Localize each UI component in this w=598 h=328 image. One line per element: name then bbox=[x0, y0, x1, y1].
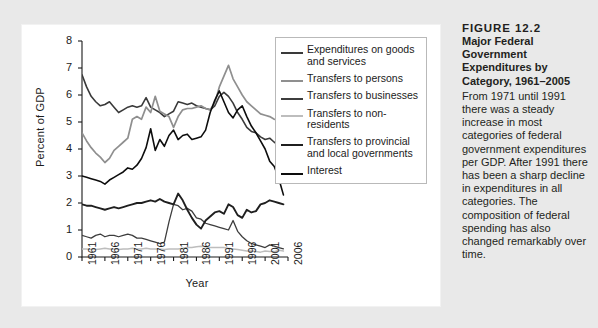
legend-item-label: Interest bbox=[307, 165, 342, 177]
legend-item-label: Expenditures on goods and services bbox=[307, 44, 420, 67]
legend-swatch-icon bbox=[281, 47, 303, 56]
x-axis-tick: 1986 bbox=[200, 242, 212, 265]
legend-item[interactable]: Transfers to provincial and local govern… bbox=[281, 136, 420, 159]
x-axis-tick: 1976 bbox=[155, 242, 167, 265]
x-axis-tick: 1991 bbox=[223, 242, 235, 265]
figure-description: From 1971 until 1991 there was a steady … bbox=[462, 90, 588, 262]
x-axis-tick: 2001 bbox=[269, 242, 281, 265]
chart-legend: Expenditures on goods and servicesTransf… bbox=[275, 37, 427, 184]
figure-title: Major Federal Government Expenditures by… bbox=[462, 35, 588, 88]
legend-item-label: Transfers to persons bbox=[307, 73, 403, 85]
legend-swatch-icon bbox=[281, 168, 303, 177]
x-axis-tick: 1971 bbox=[132, 242, 144, 265]
chart-series-line bbox=[82, 65, 283, 162]
legend-item[interactable]: Transfers to businesses bbox=[281, 90, 420, 102]
x-axis-tick: 2006 bbox=[292, 242, 304, 265]
legend-swatch-icon bbox=[281, 93, 303, 102]
legend-item[interactable]: Transfers to persons bbox=[281, 73, 420, 85]
y-axis-tick: 7 bbox=[54, 61, 72, 73]
legend-item[interactable]: Expenditures on goods and services bbox=[281, 44, 420, 67]
legend-item-label: Transfers to non-residents bbox=[307, 108, 420, 131]
figure-number: FIGURE 12.2 bbox=[462, 22, 588, 34]
y-axis-tick: 4 bbox=[54, 142, 72, 154]
figure-panel: Percent of GDP Year 01234567819611966197… bbox=[22, 25, 440, 306]
legend-swatch-icon bbox=[281, 139, 303, 148]
y-axis-tick: 2 bbox=[54, 196, 72, 208]
legend-item-label: Transfers to businesses bbox=[307, 90, 418, 102]
legend-item[interactable]: Interest bbox=[281, 165, 420, 177]
x-axis-tick: 1996 bbox=[246, 242, 258, 265]
y-axis-tick: 1 bbox=[54, 223, 72, 235]
legend-item-label: Transfers to provincial and local govern… bbox=[307, 136, 420, 159]
y-axis-title: Percent of GDP bbox=[34, 57, 46, 197]
legend-item[interactable]: Transfers to non-residents bbox=[281, 108, 420, 131]
figure-caption: FIGURE 12.2 Major Federal Government Exp… bbox=[462, 22, 588, 261]
y-axis-tick: 3 bbox=[54, 169, 72, 181]
x-axis-tick: 1981 bbox=[178, 242, 190, 265]
x-axis-tick: 1966 bbox=[109, 242, 121, 265]
legend-swatch-icon bbox=[281, 76, 303, 85]
y-axis-tick: 8 bbox=[54, 34, 72, 46]
x-axis-tick: 1961 bbox=[86, 242, 98, 265]
y-axis-tick: 5 bbox=[54, 115, 72, 127]
figure-screenshot: Percent of GDP Year 01234567819611966197… bbox=[0, 0, 598, 328]
y-axis-tick: 0 bbox=[54, 250, 72, 262]
chart-series-line bbox=[82, 194, 283, 229]
legend-swatch-icon bbox=[281, 111, 303, 120]
y-axis-tick: 6 bbox=[54, 88, 72, 100]
x-axis-title: Year bbox=[82, 277, 312, 289]
